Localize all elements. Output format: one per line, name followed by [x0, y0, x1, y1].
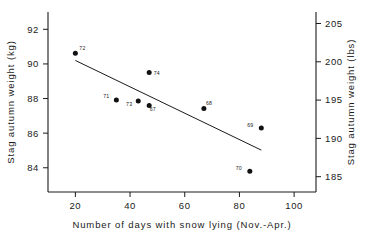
- y-tick-label-left: 92: [27, 24, 39, 35]
- y-tick-label-right: 185: [325, 171, 343, 182]
- data-point-label: 71: [103, 93, 109, 99]
- data-point-marker: [247, 169, 252, 174]
- x-axis-label: Number of days with snow lying (Nov.-Apr…: [72, 219, 291, 230]
- x-tick-label: 20: [69, 200, 81, 211]
- data-point-label: 74: [154, 70, 160, 76]
- data-point-label: 68: [206, 100, 212, 106]
- x-tick-label: 40: [124, 200, 136, 211]
- y-tick-label-left: 84: [27, 162, 39, 173]
- x-tick-label: 80: [234, 200, 246, 211]
- data-point-marker: [201, 106, 206, 111]
- y-tick-label-left: 90: [27, 58, 39, 69]
- y-tick-label-left: 88: [27, 93, 39, 104]
- data-point-label: 69: [247, 122, 253, 128]
- data-point-marker: [136, 98, 141, 103]
- x-tick-label: 60: [179, 200, 191, 211]
- data-point-label: 72: [79, 45, 85, 51]
- y-axis-label-left: Stag autumn weight (kg): [5, 40, 16, 164]
- data-point-marker: [147, 70, 152, 75]
- y-axis-label-right: Stag autumn weight (lbs): [345, 39, 356, 166]
- y-tick-label-right: 195: [325, 94, 343, 105]
- data-point-label: 67: [150, 106, 156, 112]
- data-point-marker: [73, 51, 78, 56]
- data-point-marker: [114, 97, 119, 102]
- scatter-chart: 20406080100 8486889092 185190195200205 7…: [0, 0, 366, 236]
- y-tick-label-right: 205: [325, 18, 343, 29]
- data-point-label: 73: [126, 101, 132, 107]
- y-tick-label-left: 86: [27, 128, 39, 139]
- y-tick-label-right: 200: [325, 56, 343, 67]
- data-point-marker: [259, 125, 264, 130]
- x-tick-label: 100: [285, 200, 303, 211]
- data-point-label: 70: [236, 165, 242, 171]
- y-tick-label-right: 190: [325, 133, 343, 144]
